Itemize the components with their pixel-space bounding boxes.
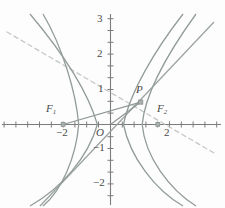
hyperbola-right-inner [124, 14, 184, 206]
segment-o-p [111, 102, 141, 124]
origin-label: O [96, 127, 104, 138]
focus-f1-letter: F [46, 102, 53, 114]
hyperbola-figure: 3 2 1 −1 −2 −2 2 O P F1 F2 [0, 0, 225, 208]
point-f2-marker [156, 123, 160, 127]
point-p-marker [139, 100, 143, 104]
x-tick-label-2: 2 [164, 127, 170, 138]
segment-f1-p [63, 102, 141, 124]
y-tick-label-2: 2 [97, 48, 103, 59]
focus-f2-letter: F [157, 102, 164, 114]
y-tick-label-1: 1 [98, 83, 104, 94]
y-tick-label-neg1: −1 [93, 142, 105, 153]
figure-canvas [0, 0, 225, 208]
y-tick-label-3: 3 [97, 13, 103, 24]
y-tick-label-neg2: −2 [93, 177, 105, 188]
focus-f2-label: F2 [157, 103, 167, 116]
focus-f1-label: F1 [46, 103, 56, 116]
focus-f1-subscript: 1 [53, 108, 56, 115]
point-p-label: P [136, 84, 143, 95]
focus-f2-subscript: 2 [164, 108, 167, 115]
x-tick-label-neg2: −2 [56, 127, 68, 138]
